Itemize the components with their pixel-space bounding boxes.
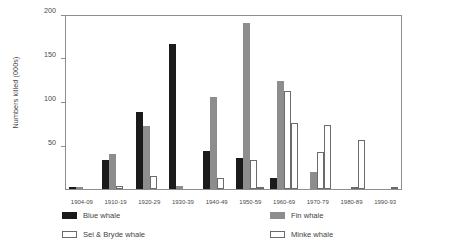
legend-swatch-sei-whale <box>62 231 77 238</box>
legend-item-minke-whale[interactable]: Minke whale <box>270 230 333 239</box>
bar-fin-whale <box>210 97 217 189</box>
bar-sei-whale <box>284 91 291 189</box>
bar-blue-whale <box>69 187 76 189</box>
bar-blue-whale <box>102 160 109 189</box>
legend-label: Blue whale <box>83 211 120 220</box>
legend-item-sei-whale[interactable]: Sei & Bryde whale <box>62 230 145 239</box>
x-axis-label: 1910-19 <box>99 196 133 208</box>
bar-group <box>334 16 368 189</box>
bar-fin-whale <box>76 187 83 189</box>
bar-group <box>66 16 100 189</box>
bar-sei-whale <box>150 176 157 189</box>
legend-swatch-blue-whale <box>62 212 77 219</box>
whaling-bar-chart: Numbers killed (000s) 50100150200 1904-0… <box>0 0 451 251</box>
bar-group <box>133 16 167 189</box>
plot-frame <box>65 15 402 190</box>
bar-minke-whale <box>391 187 398 189</box>
y-axis-tick-label: 150 <box>0 52 56 59</box>
x-axis-labels: 1904-091910-191920-291930-391940-491950-… <box>65 196 402 208</box>
bar-sei-whale <box>317 152 324 189</box>
bar-fin-whale <box>243 23 250 189</box>
y-axis-tick-label: 50 <box>0 139 56 146</box>
x-axis-label: 1940-49 <box>200 196 234 208</box>
bar-group <box>200 16 234 189</box>
bar-blue-whale <box>169 44 176 189</box>
bar-fin-whale <box>176 186 183 189</box>
bar-sei-whale <box>217 178 224 189</box>
x-axis-label: 1930-39 <box>166 196 200 208</box>
bar-sei-whale <box>351 187 358 189</box>
legend-swatch-fin-whale <box>270 212 285 219</box>
bar-minke-whale <box>257 187 264 189</box>
legend-label: Minke whale <box>291 230 333 239</box>
y-axis-title-text: Numbers killed (000s) <box>11 56 20 128</box>
bar-group <box>167 16 201 189</box>
bar-minke-whale <box>358 140 365 189</box>
bar-fin-whale <box>109 154 116 189</box>
legend-swatch-minke-whale <box>270 231 285 238</box>
y-axis-title: Numbers killed (000s) <box>8 0 22 185</box>
bar-group <box>368 16 402 189</box>
x-axis-label: 1990-93 <box>368 196 402 208</box>
bar-blue-whale <box>203 151 210 190</box>
x-axis-label: 1970-79 <box>301 196 335 208</box>
bar-group <box>301 16 335 189</box>
bar-sei-whale <box>250 160 257 189</box>
bar-minke-whale <box>291 123 298 189</box>
bar-group <box>234 16 268 189</box>
bar-fin-whale <box>277 81 284 190</box>
legend-label: Fin whale <box>291 211 324 220</box>
bar-group <box>100 16 134 189</box>
legend-label: Sei & Bryde whale <box>83 230 145 239</box>
plot-area <box>66 16 401 189</box>
x-axis-label: 1950-59 <box>234 196 268 208</box>
x-axis-label: 1960-69 <box>267 196 301 208</box>
bar-minke-whale <box>324 125 331 189</box>
x-axis-label: 1920-29 <box>132 196 166 208</box>
y-axis-tick-label: 200 <box>0 8 56 15</box>
bar-fin-whale <box>310 172 317 190</box>
bar-blue-whale <box>236 158 243 189</box>
bar-group <box>267 16 301 189</box>
x-axis-label: 1904-09 <box>65 196 99 208</box>
legend-item-fin-whale[interactable]: Fin whale <box>270 211 324 220</box>
y-axis-tick-label: 100 <box>0 95 56 102</box>
bar-sei-whale <box>116 186 123 190</box>
x-axis-label: 1980-89 <box>335 196 369 208</box>
chart-legend: Blue whaleFin whaleSei & Bryde whaleMink… <box>62 211 402 249</box>
bar-fin-whale <box>143 126 150 189</box>
legend-item-blue-whale[interactable]: Blue whale <box>62 211 120 220</box>
bar-blue-whale <box>136 112 143 189</box>
bar-blue-whale <box>270 178 277 189</box>
